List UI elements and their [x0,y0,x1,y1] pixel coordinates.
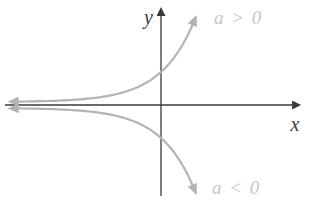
x-axis-label: x [290,113,300,135]
curve-label-a-negative: a < 0 [212,177,261,198]
curve-a-negative [17,108,193,186]
curve-label-a-positive: a > 0 [214,7,263,28]
exponential-curves-graph: y x a > 0 a < 0 [0,0,320,209]
curve-a-positive [17,24,193,102]
y-axis-label: y [142,6,153,29]
figure-canvas: y x a > 0 a < 0 [0,0,320,209]
